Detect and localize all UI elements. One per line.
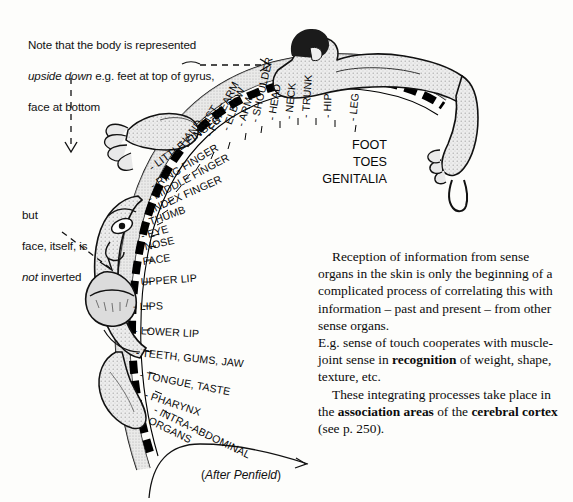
arc-label-face: - FACE (135, 251, 171, 268)
flat-label-foot: FOOT (329, 138, 387, 152)
flat-label-toes: TOES (327, 155, 387, 169)
arc-label-lower-lip: - LOWER LIP (134, 324, 200, 339)
arc-label-teeth-gums-jaw: - TEETH, GUMS, JAW (135, 346, 244, 369)
arc-label-leg: - LEG (346, 92, 361, 121)
arc-label-trunk: - TRUNK (299, 74, 314, 118)
arc-label-layer: - LITTLE FINGER- RING FINGER- MIDDLE FIN… (0, 0, 573, 502)
flat-label-genitalia: GENITALIA (301, 172, 387, 186)
homunculus-figure: Note that the body is represented upside… (0, 0, 573, 502)
arc-label-lips: - LIPS (133, 299, 163, 312)
arc-label-neck: - NECK (282, 82, 298, 120)
arc-label-upper-lip: - UPPER LIP (134, 272, 198, 288)
arc-label-hip: - HIP (321, 93, 333, 118)
